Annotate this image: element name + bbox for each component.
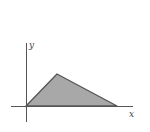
y-axis-label: y <box>28 40 35 50</box>
diagram-canvas: y x <box>0 0 150 132</box>
x-axis-label: x <box>129 109 134 119</box>
shaded-triangle-region <box>26 74 117 106</box>
